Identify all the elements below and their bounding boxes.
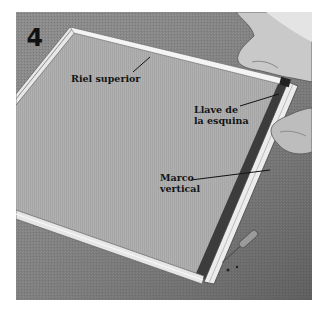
label-corner-key-line2: la esquina: [194, 115, 249, 126]
label-vertical-frame: Marco vertical: [160, 172, 200, 194]
photo-illustration: [16, 12, 312, 300]
instruction-photo: 4 Riel superior Llave de la esquina Marc…: [16, 12, 312, 300]
label-top-rail: Riel superior: [71, 73, 140, 84]
step-number: 4: [26, 25, 43, 50]
screw: [236, 266, 238, 268]
label-vertical-frame-line2: vertical: [160, 183, 200, 194]
label-corner-key-line1: Llave de: [194, 104, 249, 115]
label-vertical-frame-line1: Marco: [160, 172, 200, 183]
screw: [227, 269, 230, 272]
label-corner-key: Llave de la esquina: [194, 104, 249, 126]
